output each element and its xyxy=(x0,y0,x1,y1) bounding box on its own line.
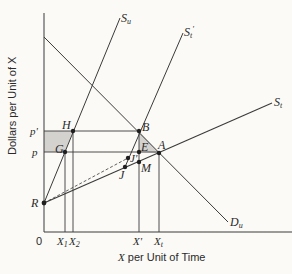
point-b xyxy=(137,129,141,133)
label-su: Su xyxy=(121,11,131,26)
x-tick-xt: Xt xyxy=(153,235,164,249)
label-m: M xyxy=(140,161,152,175)
x-tick-x2: X2 xyxy=(68,235,80,249)
x-tick-x1: X1 xyxy=(56,235,68,249)
label-a: A xyxy=(157,138,166,152)
label-j-prime: J' xyxy=(130,152,138,164)
x-axis-title: X per Unit of Time xyxy=(117,251,205,263)
y-axis-title: Dollars per Unit of X xyxy=(6,56,18,155)
label-r: R xyxy=(30,196,39,210)
x-tick-x-prime: X' xyxy=(132,235,143,247)
point-r xyxy=(42,201,47,206)
label-du: Du xyxy=(229,215,243,230)
label-h: H xyxy=(61,118,72,132)
label-st-prime: St' xyxy=(184,25,194,40)
label-st: St xyxy=(274,95,283,110)
label-g: G xyxy=(55,142,64,156)
y-tick-p: p xyxy=(31,146,38,158)
y-tick-p-prime: p' xyxy=(29,125,39,137)
point-h xyxy=(71,129,75,133)
label-j: J xyxy=(119,168,125,182)
label-e: E xyxy=(140,140,149,154)
dashed-line-r-jprime xyxy=(44,158,128,203)
origin-label: 0 xyxy=(36,235,42,247)
welfare-diagram: H G B E A J' J M R p' p 0 X1 X2 X' Xt Su… xyxy=(0,0,292,274)
label-b: B xyxy=(142,120,150,134)
